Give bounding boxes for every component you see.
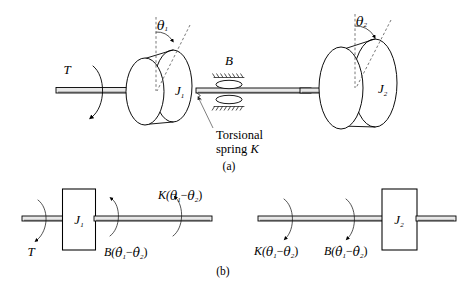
- torsional-spring-line2: spring K: [216, 142, 259, 156]
- theta1-subscript: 1: [165, 25, 169, 33]
- panel-b-group: [22, 189, 456, 250]
- theta2-subscript: 2: [364, 21, 368, 29]
- caption-a: (a): [223, 160, 236, 173]
- j1-subscript-b: 1: [80, 220, 84, 228]
- spring-k-symbol: K: [249, 142, 259, 156]
- spring-right-suffix: ): [294, 244, 298, 258]
- j1-subscript-a: 1: [181, 91, 185, 99]
- torque-label-a: T: [63, 62, 71, 77]
- spring-torque-right: K(θ1−θ2): [253, 244, 298, 259]
- spring-torque-left: K(θ1−θ2): [157, 188, 202, 203]
- hatch-lower: [212, 107, 243, 111]
- spring-left-prefix: K(: [157, 188, 171, 202]
- fbd-right: [258, 189, 456, 250]
- torsional-system-figure: T θ1 θ2 J1 J2 B Torsional spring K (a) T…: [0, 0, 473, 288]
- spring-right-prefix: K(: [253, 244, 267, 258]
- theta1-label: θ1: [157, 18, 168, 33]
- figure-root: T θ1 θ2 J1 J2 B Torsional spring K (a) T…: [0, 0, 473, 288]
- damping-torque-left: B(θ̇1−θ̇2): [104, 245, 148, 260]
- damping-torque-right: B(θ̇1−θ̇2): [324, 244, 368, 259]
- torque-label-b: T: [27, 244, 35, 259]
- middle-shaft: [196, 88, 311, 93]
- j2-subscript-b: 2: [400, 220, 404, 228]
- panel-a-group: [56, 14, 397, 129]
- damping-left-suffix: ): [144, 245, 148, 259]
- damper-label-a: B: [225, 53, 233, 68]
- spring-word: spring: [216, 142, 250, 156]
- torsional-spring-leader: [197, 93, 213, 128]
- torsional-spring-line1: Torsional: [216, 128, 264, 142]
- damping-right-suffix: ): [364, 244, 368, 258]
- spring-left-suffix: ): [198, 188, 202, 202]
- caption-b: (b): [216, 265, 230, 278]
- theta2-label: θ2: [356, 14, 368, 29]
- hatch-upper: [213, 74, 244, 78]
- j2-subscript-a: 2: [384, 89, 388, 97]
